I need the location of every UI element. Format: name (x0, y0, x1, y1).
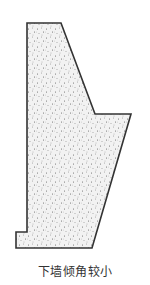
diagram-caption: 下墙倾角较小 (0, 262, 150, 279)
retaining-wall-diagram (0, 0, 150, 285)
wall-section (16, 23, 131, 248)
